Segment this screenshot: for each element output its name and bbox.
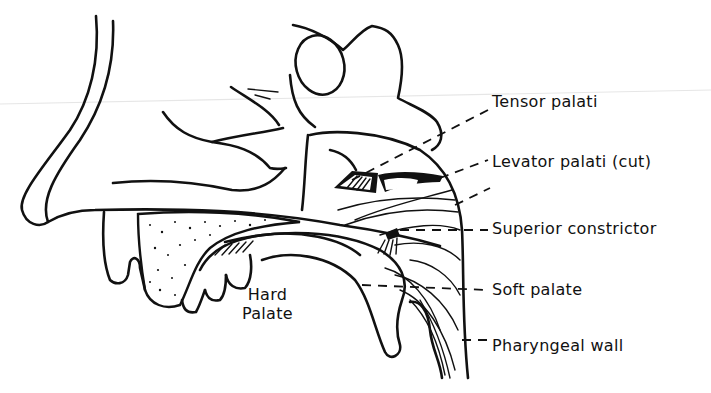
turbinate-tick [248, 89, 278, 99]
molar-tooth-1 [205, 275, 226, 301]
vomer-line [302, 135, 308, 210]
turbinate-upper [163, 112, 283, 142]
label-tensor-palati: Tensor palati [492, 92, 598, 111]
skull-outline [293, 25, 441, 150]
label-hard-palate: Hard Palate [242, 285, 293, 323]
levator-cut-fill [384, 178, 418, 190]
label-pharyngeal-wall: Pharyngeal wall [492, 336, 623, 355]
sinus-oval [289, 30, 351, 100]
leader-levator-2 [455, 188, 490, 205]
turbinate-top [231, 87, 279, 125]
label-soft-palate: Soft palate [492, 280, 582, 299]
turbinate-lower [113, 168, 285, 190]
anatomy-diagram: Tensor palati Levator palati (cut) Super… [0, 0, 711, 393]
uvula-outline [410, 302, 442, 378]
label-levator-palati: Levator palati (cut) [492, 152, 651, 171]
nasopharynx-line [330, 150, 356, 170]
scan-artifact [0, 90, 711, 104]
leader-tensor [352, 110, 488, 180]
label-hard-palate-line2: Palate [242, 304, 293, 323]
turbinate-middle [212, 142, 286, 169]
label-hard-palate-line1: Hard [242, 285, 293, 304]
palate-illustration [0, 0, 711, 393]
label-superior-constrictor: Superior constrictor [492, 219, 657, 238]
leader-levator [440, 160, 488, 178]
nose-outline [22, 16, 97, 225]
molar-tooth-2 [226, 255, 251, 288]
